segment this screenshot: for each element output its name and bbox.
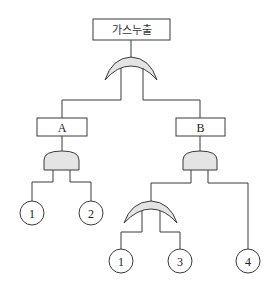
event-a: A xyxy=(37,118,87,136)
connector xyxy=(70,170,91,201)
connector xyxy=(208,170,248,249)
basic-event-label: 4 xyxy=(245,255,251,269)
basic-event-a2: 2 xyxy=(79,201,103,225)
top-event-label: 가스누출 xyxy=(112,24,152,37)
basic-event-b3: 3 xyxy=(168,249,192,273)
basic-event-b1: 1 xyxy=(109,249,133,273)
connector-to-a xyxy=(62,68,121,118)
fault-tree-diagram: 가스누출 A B 1 2 1 3 xyxy=(0,0,277,292)
event-a-label: A xyxy=(58,121,67,135)
and-gate-a xyxy=(44,151,79,170)
basic-event-label: 2 xyxy=(88,207,94,221)
basic-event-label: 1 xyxy=(118,255,124,269)
connector xyxy=(151,170,191,202)
basic-event-label: 3 xyxy=(177,255,183,269)
event-b-label: B xyxy=(196,121,204,135)
or-gate-top xyxy=(105,57,157,80)
top-event: 가스누출 xyxy=(93,19,170,40)
basic-event-label: 1 xyxy=(29,207,35,221)
and-gate-b xyxy=(183,151,217,170)
connector xyxy=(32,170,53,201)
or-gate-b xyxy=(124,201,177,223)
event-b: B xyxy=(176,118,225,136)
basic-event-a1: 1 xyxy=(20,201,44,225)
connector-to-b xyxy=(143,68,200,118)
basic-event-b4: 4 xyxy=(236,249,260,273)
